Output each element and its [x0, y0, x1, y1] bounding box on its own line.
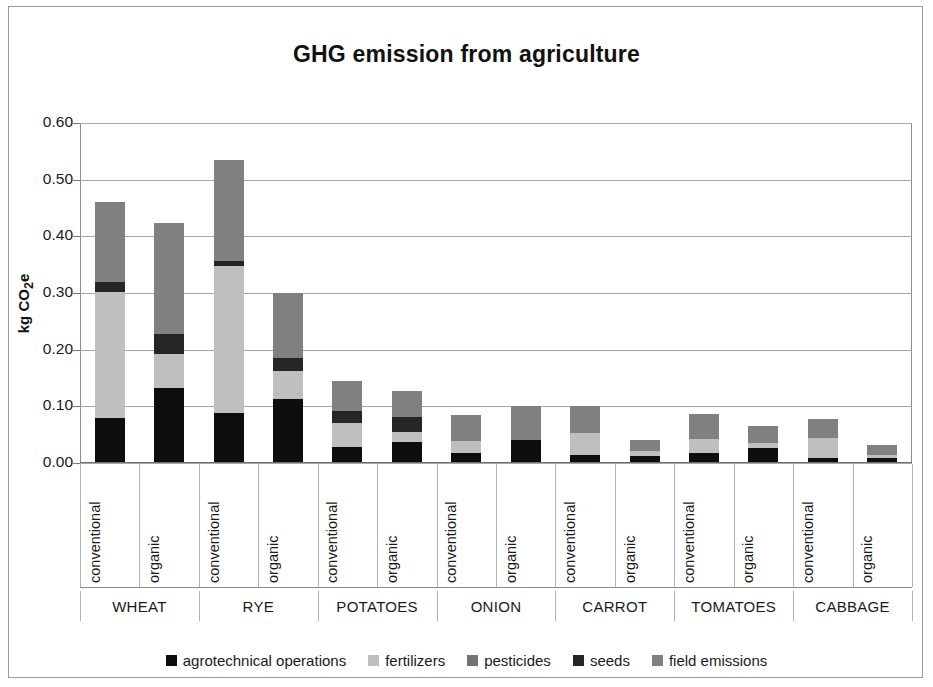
bar-segment[interactable] — [808, 419, 838, 438]
bar-slot — [451, 123, 481, 463]
bar-slot — [867, 123, 897, 463]
y-axis-tick — [73, 406, 80, 407]
legend-item[interactable]: agrotechnical operations — [166, 652, 346, 669]
y-axis-tick-label: 0.20 — [27, 340, 73, 358]
stacked-bar[interactable] — [451, 415, 481, 463]
bar-slot — [808, 123, 838, 463]
x-axis-category-label: POTATOES — [318, 588, 437, 624]
legend-item[interactable]: field emissions — [652, 652, 767, 669]
bar-segment[interactable] — [154, 354, 184, 388]
bar-segment[interactable] — [273, 358, 303, 370]
bar-segment[interactable] — [214, 160, 244, 261]
chart-frame: GHG emission from agriculture kg CO2e 0.… — [8, 6, 923, 678]
y-axis-tick — [73, 180, 80, 181]
bar-slot — [332, 123, 362, 463]
bar-segment[interactable] — [154, 334, 184, 354]
stacked-bar[interactable] — [689, 414, 719, 463]
bar-segment[interactable] — [451, 415, 481, 442]
bar-segment[interactable] — [630, 440, 660, 451]
x-axis-subcategory-label-text: organic — [146, 535, 162, 583]
x-axis-category-label: WHEAT — [80, 588, 199, 624]
bar-segment[interactable] — [748, 448, 778, 463]
x-axis-subcategory-label-text: conventional — [681, 502, 697, 583]
category-separator — [793, 591, 794, 621]
stacked-bar[interactable] — [154, 223, 184, 463]
x-axis-subcategory-label-text: organic — [859, 535, 875, 583]
bar-segment[interactable] — [214, 413, 244, 463]
bar-segment[interactable] — [154, 388, 184, 463]
legend-item[interactable]: fertilizers — [368, 652, 445, 669]
x-axis-subcategory-label: conventional — [555, 464, 614, 587]
bar-segment[interactable] — [570, 433, 600, 455]
stacked-bar[interactable] — [392, 391, 422, 463]
legend-label: agrotechnical operations — [183, 652, 346, 669]
bar-segment[interactable] — [273, 371, 303, 399]
tick-separator — [139, 464, 140, 587]
stacked-bar[interactable] — [214, 160, 244, 463]
bar-segment[interactable] — [511, 406, 541, 439]
bar-slot — [689, 123, 719, 463]
stacked-bar[interactable] — [867, 445, 897, 463]
tick-separator — [853, 464, 854, 587]
bar-segment[interactable] — [392, 391, 422, 417]
bar-segment[interactable] — [332, 447, 362, 463]
stacked-bar[interactable] — [332, 381, 362, 463]
category-separator — [318, 591, 319, 621]
bar-segment[interactable] — [95, 202, 125, 281]
bar-segment[interactable] — [392, 442, 422, 463]
x-axis-subcategory-label-text: conventional — [324, 502, 340, 583]
stacked-bar[interactable] — [808, 419, 838, 463]
bar-segment[interactable] — [392, 417, 422, 433]
legend-swatch-icon — [166, 655, 177, 666]
bar-segment[interactable] — [689, 439, 719, 453]
stacked-bar[interactable] — [630, 440, 660, 463]
x-axis-category-label: CARROT — [555, 588, 674, 624]
chart-legend: agrotechnical operationsfertilizerspesti… — [9, 652, 924, 669]
x-axis-category-labels: WHEATRYEPOTATOESONIONCARROTTOMATOESCABBA… — [80, 587, 912, 624]
bar-segment[interactable] — [808, 438, 838, 458]
x-axis-subcategory-label: organic — [139, 464, 198, 587]
stacked-bar[interactable] — [511, 406, 541, 463]
bar-segment[interactable] — [332, 423, 362, 447]
bar-segment[interactable] — [273, 399, 303, 463]
legend-item[interactable]: pesticides — [467, 652, 551, 669]
x-axis-subcategory-label: conventional — [674, 464, 733, 587]
legend-item[interactable]: seeds — [573, 652, 630, 669]
x-axis-subcategory-label: organic — [734, 464, 793, 587]
y-axis-tick — [73, 463, 80, 464]
tick-separator — [674, 464, 675, 587]
bar-segment[interactable] — [154, 223, 184, 334]
y-axis-tick-labels: 0.600.500.400.300.200.100.00 — [23, 123, 73, 463]
stacked-bar[interactable] — [570, 406, 600, 463]
tick-separator — [496, 464, 497, 587]
bar-segment[interactable] — [95, 292, 125, 418]
x-axis-subcategory-labels: conventionalorganicconventionalorganicco… — [80, 464, 912, 587]
x-axis-subcategory-label: conventional — [793, 464, 852, 587]
bar-slot — [214, 123, 244, 463]
stacked-bar[interactable] — [273, 293, 303, 463]
bar-segment[interactable] — [273, 293, 303, 358]
x-axis-subcategory-label: organic — [377, 464, 436, 587]
tick-separator — [80, 464, 81, 587]
bar-segment[interactable] — [748, 426, 778, 443]
x-axis-subcategory-label-text: conventional — [87, 502, 103, 583]
legend-swatch-icon — [573, 655, 584, 666]
tick-separator — [318, 464, 319, 587]
stacked-bar[interactable] — [95, 202, 125, 463]
tick-separator — [912, 464, 913, 587]
bar-segment[interactable] — [332, 411, 362, 423]
bar-segment[interactable] — [95, 418, 125, 463]
bar-segment[interactable] — [511, 440, 541, 463]
bar-segment[interactable] — [867, 445, 897, 455]
bar-segment[interactable] — [214, 266, 244, 412]
bar-segment[interactable] — [95, 282, 125, 292]
x-axis-subcategory-label-text: organic — [740, 535, 756, 583]
stacked-bar[interactable] — [748, 426, 778, 463]
bar-segment[interactable] — [451, 441, 481, 452]
x-axis-subcategory-label-text: organic — [622, 535, 638, 583]
legend-label: field emissions — [669, 652, 767, 669]
bar-segment[interactable] — [689, 414, 719, 440]
bar-segment[interactable] — [570, 406, 600, 433]
bar-segment[interactable] — [332, 381, 362, 411]
bar-segment[interactable] — [392, 432, 422, 442]
